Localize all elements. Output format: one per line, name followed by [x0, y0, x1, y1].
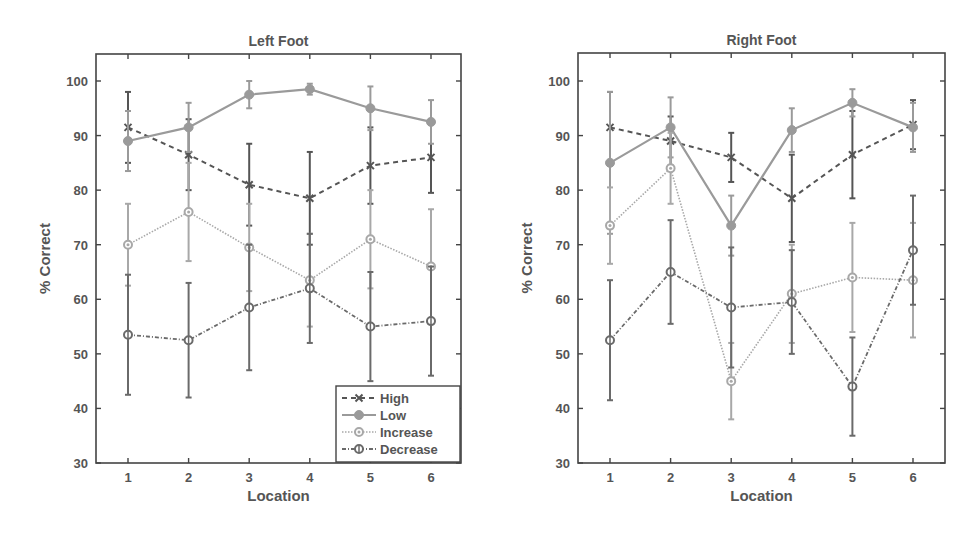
x-tick-label: 3 [246, 470, 253, 485]
chart-title: Left Foot [249, 33, 309, 49]
y-tick-label: 100 [548, 74, 570, 89]
y-tick-label: 70 [74, 238, 88, 253]
y-tick-label: 90 [556, 129, 570, 144]
y-tick-label: 40 [556, 401, 570, 416]
x-axis: 123456 [606, 53, 916, 485]
y-axis-label: % Correct [36, 223, 53, 294]
series-decrease [606, 196, 917, 436]
x-tick-label: 4 [788, 470, 796, 485]
x-tick-label: 6 [427, 470, 434, 485]
y-tick-label: 60 [556, 292, 570, 307]
x-tick-label: 5 [849, 470, 856, 485]
series-low [606, 89, 918, 255]
x-axis-label: Location [730, 487, 793, 504]
series-high [607, 92, 917, 242]
x-tick-label: 1 [606, 470, 613, 485]
series-low [124, 81, 436, 171]
x-tick-label: 1 [124, 470, 131, 485]
y-tick-label: 30 [74, 456, 88, 471]
legend-label-high: High [380, 391, 409, 406]
y-tick-label: 60 [74, 292, 88, 307]
y-tick-label: 30 [556, 456, 570, 471]
y-axis-label: % Correct [518, 223, 535, 294]
series-increase [124, 163, 435, 327]
y-axis: 30405060708090100 [548, 74, 945, 471]
x-tick-label: 5 [367, 470, 374, 485]
series-decrease [124, 234, 435, 398]
plot-frame [578, 53, 945, 463]
chart-title: Right Foot [727, 32, 797, 48]
legend: HighLowIncreaseDecrease [336, 386, 460, 462]
y-tick-label: 80 [74, 183, 88, 198]
x-tick-label: 2 [667, 470, 674, 485]
y-tick-label: 100 [66, 74, 88, 89]
legend-label-low: Low [380, 408, 407, 423]
legend-label-increase: Increase [380, 425, 433, 440]
y-tick-label: 40 [74, 401, 88, 416]
y-tick-label: 70 [556, 238, 570, 253]
chart-panel-right-foot: Right Foot30405060708090100123456Locatio… [518, 32, 945, 504]
chart-panel-left-foot: Left Foot30405060708090100123456Location… [36, 33, 461, 504]
x-tick-label: 6 [909, 470, 916, 485]
y-tick-label: 50 [74, 347, 88, 362]
x-axis-label: Location [247, 487, 310, 504]
y-tick-label: 50 [556, 347, 570, 362]
figure: Left Foot30405060708090100123456Location… [0, 0, 978, 534]
y-tick-label: 80 [556, 183, 570, 198]
x-tick-label: 4 [306, 470, 314, 485]
legend-label-decrease: Decrease [380, 442, 438, 457]
x-tick-label: 2 [185, 470, 192, 485]
x-tick-label: 3 [728, 470, 735, 485]
y-tick-label: 90 [74, 129, 88, 144]
